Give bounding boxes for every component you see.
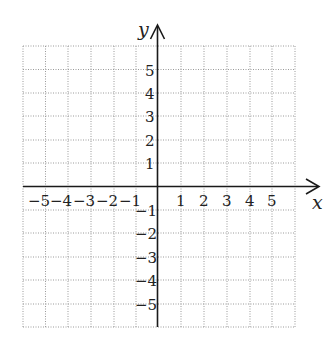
x-tick-label: 3 [222, 192, 232, 210]
y-tick-label: 1 [145, 155, 155, 173]
y-axis-label: y [137, 18, 149, 40]
y-tick-label: 5 [145, 62, 155, 80]
y-tick-label: 4 [145, 85, 155, 103]
y-tick-label: 2 [145, 132, 155, 150]
y-tick-labels-positive: 5 4 3 2 1 [145, 62, 155, 173]
x-tick-label: −3 [73, 192, 95, 210]
x-tick-labels-positive: 1 2 3 4 5 [176, 192, 277, 210]
x-tick-labels-negative: −5 −4 −3 −2 −1 [28, 192, 141, 210]
y-tick-label: −5 [135, 296, 157, 314]
x-tick-label: 1 [176, 192, 186, 210]
x-tick-label: −2 [96, 192, 118, 210]
x-tick-label: 5 [267, 192, 277, 210]
x-axis-label: x [312, 191, 323, 213]
y-tick-label: −2 [135, 225, 157, 243]
y-tick-label: −1 [135, 202, 157, 220]
y-tick-label: −3 [135, 249, 157, 267]
y-tick-label: −4 [135, 272, 157, 290]
y-tick-labels-negative: −1 −2 −3 −4 −5 [135, 202, 157, 314]
coordinate-plane: x y −5 −4 −3 −2 −1 1 2 3 4 5 5 4 3 2 1 −… [0, 0, 332, 348]
x-tick-label: −5 [28, 192, 50, 210]
y-tick-label: 3 [145, 108, 155, 126]
x-tick-label: −4 [50, 192, 72, 210]
x-tick-label: 2 [199, 192, 209, 210]
x-tick-label: 4 [245, 192, 255, 210]
